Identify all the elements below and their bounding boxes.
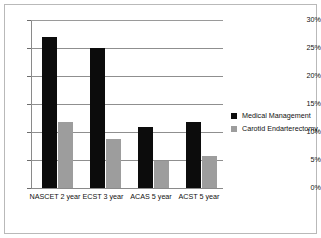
- bar: [90, 48, 105, 188]
- bar: [186, 122, 201, 188]
- y-axis-tick-label: 25%: [295, 44, 321, 52]
- chart-figure: 0%5%10%15%20%25%30% NASCET 2 yearECST 3 …: [0, 0, 321, 238]
- y-axis-tick-label: 30%: [295, 16, 321, 24]
- bar: [58, 122, 73, 188]
- y-axis-tick-label: 5%: [295, 156, 321, 164]
- legend-label: Carotid Endarterectomy: [242, 124, 318, 133]
- bar-group: [42, 20, 73, 188]
- bar: [106, 139, 121, 188]
- legend-swatch-icon-medical-management: [231, 113, 237, 119]
- y-axis-tick-label: 20%: [295, 72, 321, 80]
- bar-group: [90, 20, 121, 188]
- legend-item-carotid-endarterectomy: Carotid Endarterectomy: [231, 123, 317, 134]
- bar-group: [138, 20, 169, 188]
- bar: [42, 37, 57, 188]
- legend-label: Medical Management: [242, 111, 311, 120]
- legend-swatch-icon-carotid-endarterectomy: [231, 126, 237, 132]
- x-axis-tick-label: ACST 5 year: [169, 192, 229, 201]
- bar: [202, 156, 217, 188]
- bar: [138, 127, 153, 188]
- x-axis-line: [31, 188, 223, 189]
- y-axis-tick-label: 0%: [295, 184, 321, 192]
- plot-area: [31, 20, 223, 188]
- chart-legend: Medical Management Carotid Endarterectom…: [231, 110, 317, 136]
- bar-group: [186, 20, 217, 188]
- bar: [154, 161, 169, 188]
- y-axis-tick-label: 15%: [295, 100, 321, 108]
- legend-item-medical-management: Medical Management: [231, 110, 317, 121]
